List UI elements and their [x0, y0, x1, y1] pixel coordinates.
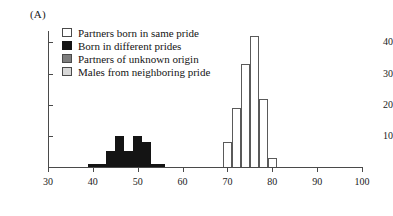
histogram-bar — [160, 164, 164, 167]
histogram-bar — [106, 151, 115, 167]
legend-swatch-icon — [62, 41, 72, 50]
x-axis-tick-label: 50 — [123, 176, 153, 187]
panel-label: (A) — [30, 8, 46, 20]
histogram-bar — [241, 64, 250, 167]
histogram-bar — [88, 164, 97, 167]
x-axis-tick-label: 60 — [168, 176, 198, 187]
figure-panel-a: (A) 10203040 30405060708090100 Partners … — [0, 0, 393, 216]
legend-item: Males from neighboring pride — [62, 65, 210, 78]
x-axis-tick-label: 100 — [347, 176, 377, 187]
histogram-bar — [115, 136, 124, 167]
histogram-bar — [142, 142, 151, 167]
x-axis-line — [48, 167, 363, 168]
x-axis-tick — [93, 167, 94, 172]
histogram-bar — [268, 158, 277, 167]
legend-swatch-icon — [62, 28, 72, 37]
x-axis-tick-label: 90 — [302, 176, 332, 187]
legend-swatch-icon — [62, 54, 72, 63]
histogram-bar — [232, 108, 241, 167]
x-axis-tick-label: 40 — [78, 176, 108, 187]
x-axis-tick — [272, 167, 273, 172]
x-axis-tick — [183, 167, 184, 172]
legend-item: Born in different prides — [62, 39, 210, 52]
histogram-bar — [259, 99, 268, 168]
x-axis-tick — [227, 167, 228, 172]
chart-legend: Partners born in same prideBorn in diffe… — [62, 26, 210, 78]
x-axis-tick-label: 80 — [257, 176, 287, 187]
legend-swatch-icon — [62, 67, 72, 76]
histogram-bar — [97, 164, 106, 167]
x-axis-tick-label: 70 — [212, 176, 242, 187]
legend-item-label: Partners born in same pride — [78, 27, 199, 39]
histogram-bar — [223, 142, 232, 167]
x-axis-tick — [48, 167, 49, 172]
histogram-bar — [151, 164, 160, 167]
legend-item-label: Partners of unknown origin — [78, 53, 199, 65]
x-axis-tick — [317, 167, 318, 172]
histogram-bar — [124, 151, 133, 167]
histogram-bar — [250, 36, 259, 167]
legend-item: Partners of unknown origin — [62, 52, 210, 65]
legend-item-label: Born in different prides — [78, 40, 181, 52]
x-axis-tick-label: 30 — [33, 176, 63, 187]
x-axis-tick — [362, 167, 363, 172]
x-axis-tick — [138, 167, 139, 172]
legend-item-label: Males from neighboring pride — [78, 66, 210, 78]
legend-item: Partners born in same pride — [62, 26, 210, 39]
histogram-bar — [133, 136, 142, 167]
